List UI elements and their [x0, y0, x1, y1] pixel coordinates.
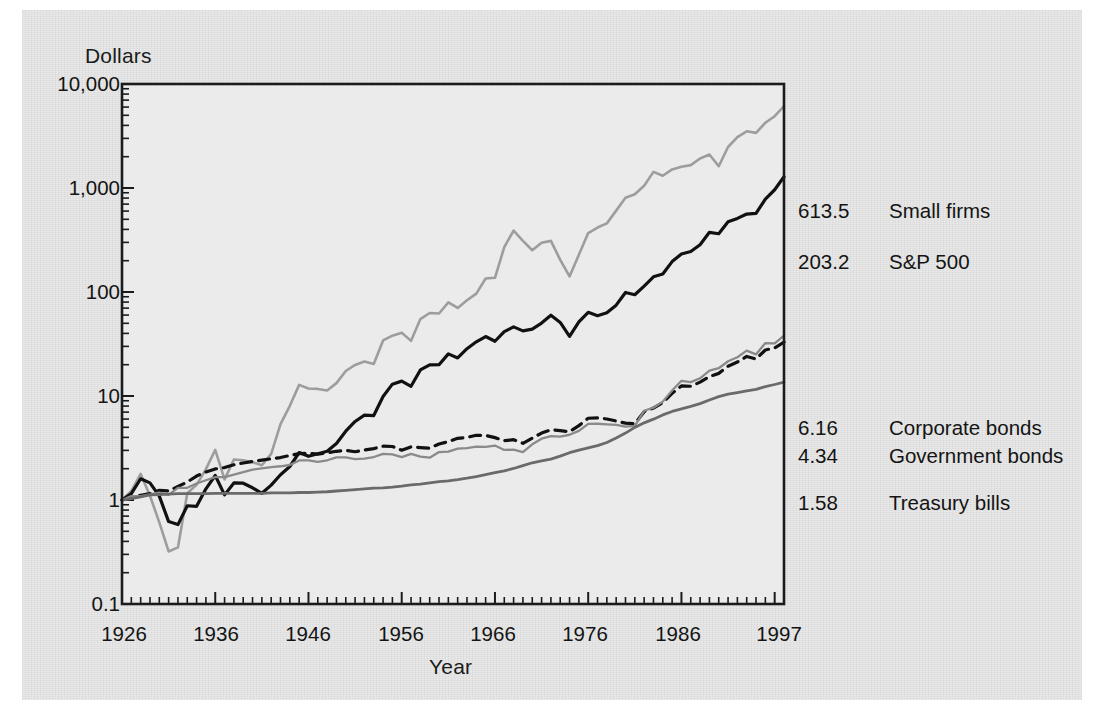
plot-canvas — [0, 0, 1102, 721]
investment-growth-chart: Dollars Year 10,000 1,000 100 10 1 0.1 1… — [0, 0, 1102, 721]
chart-page: Dollars Year 10,000 1,000 100 10 1 0.1 1… — [0, 0, 1102, 721]
plot-background — [122, 84, 784, 604]
